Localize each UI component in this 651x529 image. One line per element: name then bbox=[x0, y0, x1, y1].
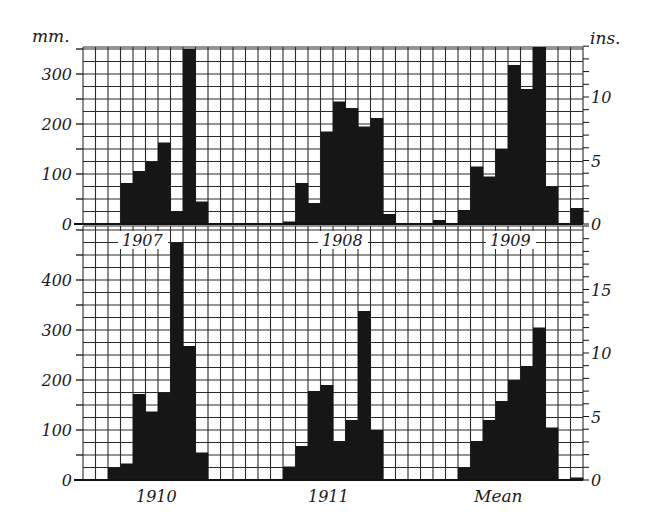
label-1909: 1909 bbox=[490, 231, 531, 250]
right-unit-label: ins. bbox=[590, 28, 621, 48]
bar-1911-4 bbox=[333, 441, 346, 480]
right-tick-label: 10 bbox=[591, 88, 611, 107]
right-tick-label: 15 bbox=[591, 281, 611, 300]
bar-1907-6 bbox=[196, 202, 209, 225]
left-tick-label: 0 bbox=[62, 471, 72, 490]
right-tick-label: 5 bbox=[591, 152, 601, 171]
bar-1908-4 bbox=[333, 102, 346, 225]
bar-1909-8 bbox=[533, 47, 546, 224]
bar-1911-1 bbox=[296, 446, 309, 480]
label-mean: Mean bbox=[473, 486, 523, 506]
bar-1911-0 bbox=[283, 467, 296, 481]
left-tick-label: 400 bbox=[40, 271, 72, 290]
bar-mean-5 bbox=[521, 366, 534, 480]
bar-1909-2 bbox=[458, 210, 471, 224]
label-1908: 1908 bbox=[322, 231, 363, 250]
year-labels-bottom: 1910 1911 Mean bbox=[136, 486, 523, 506]
right-tick-label: 0 bbox=[591, 215, 601, 234]
left-tick-label: 100 bbox=[41, 421, 72, 440]
label-1910: 1910 bbox=[136, 487, 177, 506]
bar-1910-2 bbox=[133, 394, 146, 480]
bar-1911-3 bbox=[321, 385, 334, 480]
bar-1910-3 bbox=[146, 412, 159, 481]
bar-1907-3 bbox=[158, 143, 171, 225]
bar-1907-4 bbox=[171, 212, 184, 225]
left-tick-label: 200 bbox=[40, 371, 72, 390]
bar-1908-8 bbox=[383, 214, 396, 224]
rainfall-chart: 010020030001002003004000510051015 mm. in… bbox=[0, 0, 651, 529]
right-tick-label: 0 bbox=[591, 471, 601, 490]
left-tick-label: 200 bbox=[40, 115, 72, 134]
bar-1909-3 bbox=[471, 167, 484, 225]
bar-1907-0 bbox=[121, 183, 134, 224]
bar-1910-7 bbox=[196, 453, 209, 481]
bar-1911-6 bbox=[358, 311, 371, 480]
bar-mean-2 bbox=[483, 420, 496, 480]
bar-1908-6 bbox=[358, 127, 371, 225]
bar-1909-9 bbox=[546, 187, 559, 225]
bar-1908-1 bbox=[296, 183, 309, 224]
bar-1908-7 bbox=[371, 118, 384, 224]
bar-mean-4 bbox=[508, 380, 521, 480]
left-tick-label: 300 bbox=[41, 321, 72, 340]
bar-1910-4 bbox=[158, 393, 171, 481]
label-1907: 1907 bbox=[122, 231, 164, 250]
bar-mean-3 bbox=[496, 401, 509, 480]
bar-1909-7 bbox=[521, 89, 534, 224]
bar-1909-4 bbox=[483, 177, 496, 225]
bar-mean-7 bbox=[546, 428, 559, 481]
bar-1911-7 bbox=[371, 430, 384, 480]
left-tick-label: 300 bbox=[41, 65, 72, 84]
bar-1911-2 bbox=[308, 391, 321, 480]
bar-1908-5 bbox=[346, 108, 359, 224]
bar-mean-1 bbox=[471, 441, 484, 480]
bar-1910-1 bbox=[121, 464, 134, 481]
left-unit-label: mm. bbox=[32, 26, 70, 46]
label-1911: 1911 bbox=[308, 487, 349, 506]
left-tick-label: 100 bbox=[41, 165, 72, 184]
bar-mean-6 bbox=[533, 328, 546, 481]
bar-1908-2 bbox=[308, 203, 321, 224]
left-tick-label: 0 bbox=[62, 215, 72, 234]
bar-1909-5 bbox=[496, 149, 509, 224]
bar-1908-3 bbox=[321, 132, 334, 225]
bar-1910-6 bbox=[183, 346, 196, 480]
bar-1910-5 bbox=[171, 243, 184, 481]
bar-1909-6 bbox=[508, 65, 521, 224]
right-tick-label: 5 bbox=[591, 408, 601, 427]
bar-1907-1 bbox=[133, 171, 146, 224]
right-tick-label: 10 bbox=[591, 344, 611, 363]
bar-1907-5 bbox=[183, 49, 196, 224]
bar-mean-0 bbox=[458, 468, 471, 481]
bar-1909-11 bbox=[571, 208, 584, 224]
bar-1907-2 bbox=[146, 162, 159, 225]
bar-1911-5 bbox=[346, 420, 359, 480]
bar-1910-0 bbox=[108, 468, 121, 481]
